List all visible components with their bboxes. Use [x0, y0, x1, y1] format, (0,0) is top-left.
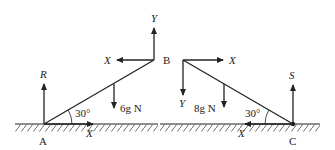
point-C-label: C — [289, 135, 296, 147]
point-C-dot — [291, 122, 295, 126]
rod-BC — [183, 60, 293, 124]
angle-arc-left — [68, 110, 72, 124]
friction-X-label-right: X — [237, 127, 246, 139]
weight-label-left: 6g N — [120, 102, 142, 114]
angle-label-right: 30° — [245, 107, 260, 119]
force-Y-label-right: Y — [179, 97, 187, 109]
force-Y-label-left: Y — [151, 12, 159, 24]
force-X-label-at-B-left: X — [103, 54, 112, 66]
reaction-R-label: R — [39, 68, 47, 80]
reaction-S-label: S — [289, 69, 295, 81]
point-B-label: B — [163, 54, 170, 66]
angle-label-left: 30° — [75, 107, 90, 119]
right-rod-diagram: X Y 8g N 30° S X C — [179, 54, 296, 147]
friction-X-label-left: X — [85, 127, 94, 139]
statics-diagram: R X 30° 6g N Y X A B X Y 8g N 30° — [0, 0, 335, 150]
force-X-label-at-B-right: X — [228, 54, 237, 66]
rod-AB — [44, 60, 154, 124]
weight-label-right: 8g N — [194, 102, 216, 114]
point-A-label: A — [39, 135, 47, 147]
angle-arc-right — [265, 110, 269, 124]
